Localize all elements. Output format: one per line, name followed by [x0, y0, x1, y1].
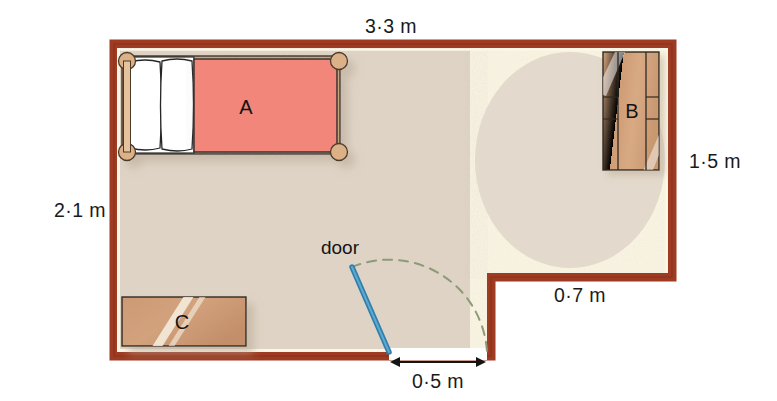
bed-group [119, 53, 348, 161]
pillow-left [129, 60, 162, 150]
wardrobe-label: B [625, 100, 638, 122]
dimension-label-door-width: 0·5 m [412, 370, 464, 392]
chest-label: C [175, 311, 189, 333]
pillow-right [161, 59, 194, 151]
dimension-label-top-width: 3·3 m [365, 15, 417, 37]
floor-plan-diagram: A B [0, 0, 777, 401]
dimension-label-bottom-right: 0·7 m [554, 284, 606, 306]
bed-headboard [124, 61, 131, 152]
floor-plan-canvas: A B [0, 0, 777, 401]
dimension-label-right-height: 1·5 m [689, 150, 741, 172]
bed-post-top-right [331, 53, 348, 70]
dimension-label-left-height: 2·1 m [54, 199, 106, 221]
bed-mattress [194, 59, 337, 152]
bed-label: A [239, 96, 253, 118]
bed-post-bottom-right [331, 144, 348, 161]
door-opening [389, 348, 487, 360]
door-label: door [321, 237, 360, 258]
